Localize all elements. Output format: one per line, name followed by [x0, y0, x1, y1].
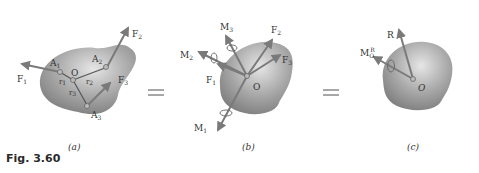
label-origin-o: O — [418, 83, 426, 93]
point-a1-marker — [58, 70, 63, 75]
label-m3: M3 — [220, 22, 233, 33]
label-moment-m-o-r: MOR — [360, 46, 375, 59]
origin-o-marker — [245, 74, 250, 79]
rigid-body-shape — [220, 42, 293, 114]
panel-b-caption: (b) — [242, 142, 255, 152]
panel-b: O F1 F2 F3 M1 M2 M3 (b) — [180, 22, 293, 152]
origin-o-marker — [71, 78, 76, 83]
label-r3: r3 — [69, 89, 76, 97]
label-f1: F1 — [17, 74, 27, 85]
point-a3-marker — [85, 104, 90, 109]
label-origin-o: O — [253, 82, 260, 92]
equals-sign-1 — [148, 90, 164, 95]
label-origin-o: O — [71, 68, 78, 78]
label-m1: M1 — [194, 123, 207, 134]
label-m2: M2 — [180, 50, 193, 61]
figure-caption: Fig. 3.60 — [6, 152, 60, 165]
panel-a: A1 A2 A3 O F1 F2 F3 r1 r2 r3 (a) — [17, 28, 142, 152]
label-f2: F2 — [132, 29, 142, 40]
panel-c: O R MOR (c) — [360, 30, 453, 152]
label-r1: r1 — [59, 78, 66, 86]
equivalent-force-system-diagram: A1 A2 A3 O F1 F2 F3 r1 r2 r3 (a) O F1 F2… — [0, 0, 479, 173]
panel-a-caption: (a) — [68, 142, 81, 152]
label-r2: r2 — [86, 78, 93, 86]
panel-c-caption: (c) — [407, 142, 420, 152]
label-f2: F2 — [271, 25, 281, 36]
rigid-body-shape — [383, 42, 453, 110]
label-f1: F1 — [206, 75, 216, 86]
point-a2-marker — [104, 65, 109, 70]
label-r: R — [387, 30, 394, 40]
origin-o-marker — [411, 77, 416, 82]
equals-sign-2 — [323, 90, 339, 95]
